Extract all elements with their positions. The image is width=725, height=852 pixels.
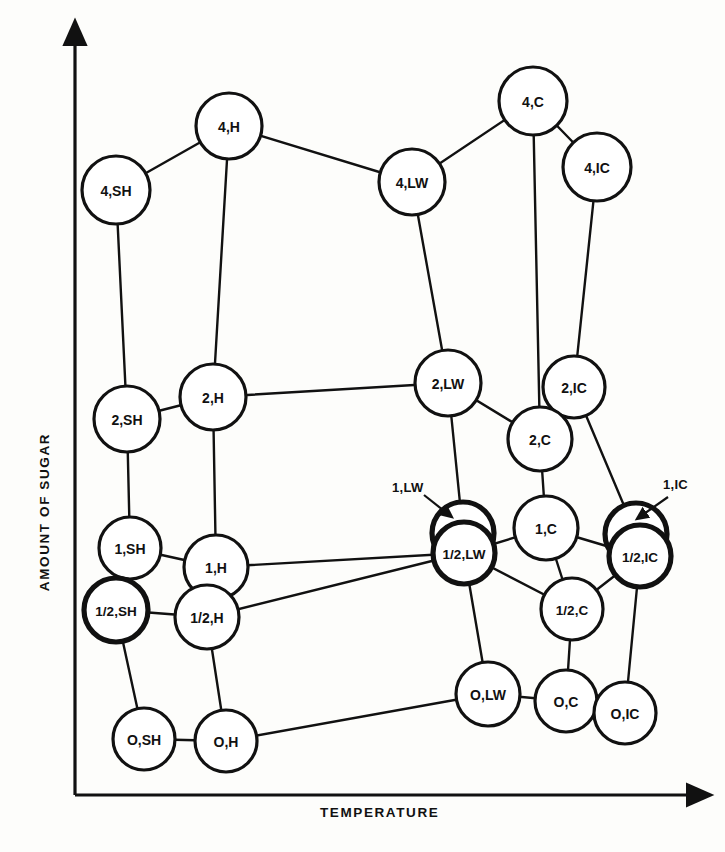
node-label: O,C xyxy=(554,694,579,710)
y-axis-title: AMOUNT OF SUGAR xyxy=(37,433,52,591)
node-4LW[interactable]: 4,LW xyxy=(379,149,445,215)
edge-2H-2LW xyxy=(213,383,448,397)
network-diagram: 4,SH4,H4,LW4,C4,IC2,SH2,H2,LW2,IC2,C1,SH… xyxy=(0,0,725,852)
node-label: O,SH xyxy=(127,732,161,748)
node-label: 1,C xyxy=(535,521,557,537)
node-OLW[interactable]: O,LW xyxy=(456,662,520,726)
node-4C[interactable]: 4,C xyxy=(499,67,567,135)
node-label: 2,H xyxy=(202,390,224,406)
node-label: 4,C xyxy=(522,94,544,110)
node-label: 4,LW xyxy=(396,175,429,191)
node-12IC[interactable]: 1/2,IC xyxy=(609,525,671,587)
edge-4C-2C xyxy=(533,101,540,439)
node-12H[interactable]: 1/2,H xyxy=(175,585,239,649)
node-4H[interactable]: 4,H xyxy=(196,93,262,159)
callout-pointer-arrow-icon xyxy=(424,495,448,514)
node-label: 1/2,SH xyxy=(95,604,136,619)
node-label: 2,LW xyxy=(432,376,465,392)
node-2C[interactable]: 2,C xyxy=(508,407,572,471)
node-label: 1/2,H xyxy=(190,610,223,626)
node-OIC[interactable]: O,IC xyxy=(594,682,656,744)
node-label: 2,SH xyxy=(111,412,142,428)
edge-1H-12LW xyxy=(216,553,464,567)
node-group: 4,SH4,H4,LW4,C4,IC2,SH2,H2,LW2,IC2,C1,SH… xyxy=(82,67,671,772)
node-2SH[interactable]: 2,SH xyxy=(94,386,160,452)
node-label: 2,IC xyxy=(561,380,587,396)
node-12LW[interactable]: 1/2,LW xyxy=(433,522,495,584)
callout-label: 1,IC xyxy=(663,477,688,492)
node-2H[interactable]: 2,H xyxy=(180,364,246,430)
node-label: 4,H xyxy=(218,119,240,135)
node-1C[interactable]: 1,C xyxy=(514,496,578,560)
node-label: O,IC xyxy=(611,706,640,722)
edge-4H-2H xyxy=(213,126,229,397)
node-12C[interactable]: 1/2,C xyxy=(541,578,603,640)
node-label: 1/2,IC xyxy=(622,550,658,565)
node-label: O,LW xyxy=(470,687,507,703)
node-label: O,H xyxy=(214,734,239,750)
node-4IC[interactable]: 4,IC xyxy=(563,133,631,201)
edge-OH-OLW xyxy=(226,694,488,741)
node-label: 1,H xyxy=(205,560,227,576)
figure-canvas: 4,SH4,H4,LW4,C4,IC2,SH2,H2,LW2,IC2,C1,SH… xyxy=(0,0,725,852)
node-OH[interactable]: O,H xyxy=(195,710,257,772)
node-4SH[interactable]: 4,SH xyxy=(82,156,150,224)
node-OSH[interactable]: O,SH xyxy=(113,708,175,770)
node-1SH[interactable]: 1,SH xyxy=(99,517,161,579)
node-label: 1,SH xyxy=(114,541,145,557)
node-label: 1/2,LW xyxy=(443,547,486,562)
node-2LW[interactable]: 2,LW xyxy=(415,350,481,416)
node-label: 2,C xyxy=(529,432,551,448)
node-label: 1/2,C xyxy=(556,603,589,618)
node-label: 4,IC xyxy=(584,160,610,176)
x-axis-title: TEMPERATURE xyxy=(320,805,439,820)
node-12SH[interactable]: 1/2,SH xyxy=(84,578,148,642)
node-OC[interactable]: O,C xyxy=(535,670,597,732)
callout-1-ic: 1,IC xyxy=(641,477,688,516)
node-label: 4,SH xyxy=(100,183,131,199)
callout-label: 1,LW xyxy=(392,480,424,495)
